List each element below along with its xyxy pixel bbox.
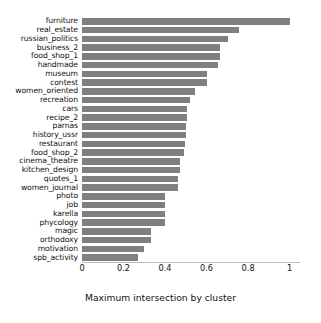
- y-axis-tick-label: museum: [45, 70, 78, 78]
- bar: [82, 114, 187, 120]
- bar: [82, 62, 218, 68]
- bar: [82, 141, 185, 147]
- bar: [82, 36, 228, 42]
- x-axis-tick-label: 0.4: [159, 264, 172, 272]
- y-axis-tick-label: cinema_theatre: [19, 157, 78, 165]
- y-axis-tick-label: russian_politics: [21, 35, 78, 43]
- y-axis-tick-label: cars: [62, 105, 78, 113]
- y-axis-tick-label: quotes_1: [44, 175, 78, 183]
- y-axis-tick-label: history_ussr: [33, 131, 78, 139]
- y-axis-tick-label: job: [67, 201, 78, 209]
- y-axis-tick-label: karella: [53, 210, 78, 218]
- bar: [82, 106, 187, 112]
- y-axis-tick-label: spb_activity: [33, 254, 78, 262]
- y-axis-tick-label: parnas: [52, 122, 78, 130]
- bar: [82, 132, 186, 138]
- x-axis-line: [82, 262, 300, 263]
- x-axis-label: Maximum intersection by cluster: [0, 292, 321, 303]
- bar: [82, 184, 178, 190]
- bar: [82, 211, 165, 217]
- y-axis-category-labels: furniturereal_estaterussian_politicsbusi…: [0, 17, 79, 262]
- bar: [82, 79, 207, 85]
- y-axis-tick-label: kitchen_design: [22, 166, 78, 174]
- bar: [82, 123, 186, 129]
- y-axis-tick-label: contest: [50, 79, 78, 87]
- bar: [82, 237, 151, 243]
- y-axis-tick-label: women_journal: [21, 184, 78, 192]
- x-axis-tick-label: 1: [287, 264, 292, 272]
- bar: [82, 97, 190, 103]
- y-axis-tick-label: business_2: [37, 44, 78, 52]
- bar: [82, 254, 138, 260]
- bar-chart-figure: furniturereal_estaterussian_politicsbusi…: [0, 0, 321, 323]
- bar: [82, 71, 207, 77]
- y-axis-tick-label: furniture: [46, 17, 78, 25]
- bar: [82, 202, 165, 208]
- bar: [82, 228, 151, 234]
- bar: [82, 167, 180, 173]
- bar: [82, 158, 180, 164]
- y-axis-tick-label: restaurant: [39, 140, 78, 148]
- y-axis-tick-label: magic: [55, 227, 78, 235]
- x-axis-tick-labels: 00.20.40.60.81: [82, 264, 300, 278]
- bar: [82, 53, 220, 59]
- bar: [82, 149, 184, 155]
- y-axis-tick-label: food_shop_1: [31, 52, 78, 60]
- y-axis-tick-label: food_shop_2: [31, 149, 78, 157]
- y-axis-tick-label: real_estate: [36, 26, 78, 34]
- bar: [82, 88, 195, 94]
- y-axis-tick-label: recipe_2: [46, 114, 78, 122]
- bar: [82, 219, 165, 225]
- y-axis-tick-label: women_oriented: [15, 87, 78, 95]
- bar: [82, 44, 220, 50]
- bar: [82, 176, 178, 182]
- y-axis-tick-label: motivation: [38, 245, 78, 253]
- x-axis-tick-label: 0: [79, 264, 84, 272]
- bar: [82, 27, 239, 33]
- y-axis-tick-label: handmade: [38, 61, 78, 69]
- bar: [82, 246, 144, 252]
- x-axis-tick-label: 0.2: [117, 264, 130, 272]
- y-axis-tick-label: orthodoxy: [40, 236, 78, 244]
- bar: [82, 18, 290, 24]
- y-axis-tick-label: phycology: [39, 219, 78, 227]
- y-axis-tick-label: photo: [56, 192, 78, 200]
- y-axis-tick-label: recreation: [40, 96, 78, 104]
- plot-area: [82, 17, 300, 262]
- x-axis-tick-label: 0.6: [200, 264, 213, 272]
- x-axis-tick-label: 0.8: [242, 264, 255, 272]
- bar: [82, 193, 165, 199]
